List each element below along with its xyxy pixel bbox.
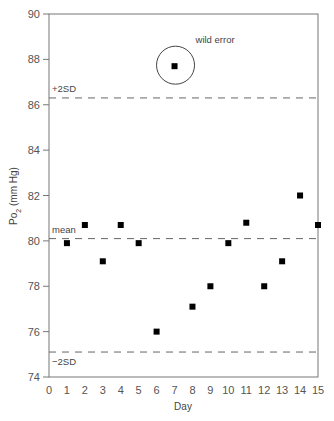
y-tick-label: 90 <box>28 8 40 20</box>
x-tick-label: 9 <box>207 384 213 396</box>
x-tick-label: 13 <box>276 384 288 396</box>
x-tick-label: 7 <box>171 384 177 396</box>
data-point <box>297 193 303 199</box>
x-tick-label: 4 <box>118 384 124 396</box>
y-tick-label: 80 <box>28 235 40 247</box>
y-tick-label: 86 <box>28 99 40 111</box>
x-tick-label: 12 <box>258 384 270 396</box>
x-tick-label: 11 <box>241 384 252 396</box>
data-point <box>189 304 195 310</box>
x-tick-label: 8 <box>189 384 195 396</box>
data-point <box>154 329 160 335</box>
x-tick-label: 5 <box>136 384 142 396</box>
control-chart: 747678808284868890 012345678910111213141… <box>0 0 334 421</box>
y-tick-label: 82 <box>28 190 40 202</box>
x-tick-label: 10 <box>222 384 234 396</box>
data-point <box>172 63 178 69</box>
plot-border <box>49 14 318 377</box>
y-axis: 747678808284868890 <box>28 8 49 383</box>
plot-frame <box>49 14 318 377</box>
x-tick-label: 0 <box>46 384 52 396</box>
data-point <box>118 222 124 228</box>
y-tick-label: 78 <box>28 280 40 292</box>
x-axis-title: Day <box>174 401 192 412</box>
y-tick-label: 74 <box>28 371 40 383</box>
data-point <box>100 258 106 264</box>
y-axis-title-unit: (mm Hg) <box>8 167 19 209</box>
x-axis: 0123456789101112131415 <box>46 384 324 396</box>
x-tick-label: 2 <box>82 384 88 396</box>
x-tick-label: 6 <box>154 384 160 396</box>
y-tick-label: 84 <box>28 144 40 156</box>
data-points <box>64 63 321 334</box>
reference-line-label: −2SD <box>52 356 76 367</box>
data-point <box>82 222 88 228</box>
annotations: wild error <box>157 34 235 84</box>
reference-line-label: mean <box>52 224 76 235</box>
data-point <box>64 240 70 246</box>
x-tick-label: 3 <box>100 384 106 396</box>
data-point <box>207 283 213 289</box>
reference-lines: +2SDmean−2SD <box>49 83 318 367</box>
data-point <box>136 240 142 246</box>
data-point <box>279 258 285 264</box>
y-tick-label: 76 <box>28 326 40 338</box>
data-point <box>225 240 231 246</box>
data-point <box>315 222 321 228</box>
x-tick-label: 14 <box>294 384 306 396</box>
x-tick-label: 15 <box>312 384 324 396</box>
y-tick-label: 88 <box>28 53 40 65</box>
y-axis-title-main: Po <box>8 212 19 225</box>
data-point <box>243 220 249 226</box>
data-point <box>261 283 267 289</box>
y-axis-title: Po2 (mm Hg) <box>8 167 22 225</box>
x-tick-label: 1 <box>64 384 70 396</box>
wild-error-label: wild error <box>195 34 235 45</box>
reference-line-label: +2SD <box>52 83 76 94</box>
